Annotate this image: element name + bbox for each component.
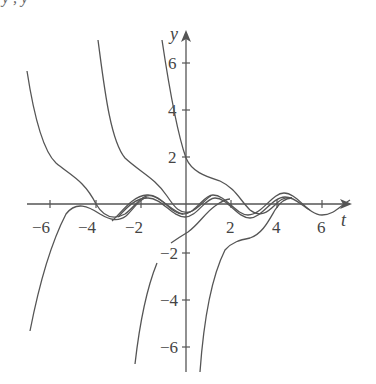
y-tick-labels: 6 4 2 −2 −4 −6 — [160, 54, 179, 357]
y-tick-label: 2 — [168, 148, 177, 167]
y-tick-label: 6 — [168, 54, 177, 73]
curve-upper-2 — [98, 40, 211, 212]
y-tick-label: −6 — [160, 338, 178, 357]
x-tick-label: 2 — [226, 218, 235, 237]
x-tick-label: −6 — [32, 218, 50, 237]
y-tick-label: −2 — [160, 244, 178, 263]
top-text-fragment: y , y — [0, 0, 29, 7]
y-axis-label: y — [168, 24, 178, 44]
solution-curves-plot: y , y −6 −4 −2 2 4 6 t 6 4 2 −2 −4 — [0, 0, 376, 384]
x-tick-labels: −6 −4 −2 2 4 6 — [32, 218, 326, 237]
x-axis-label: t — [341, 210, 347, 230]
curve-upper-3 — [162, 40, 292, 214]
curves — [27, 40, 350, 372]
curve-lower-2 — [135, 263, 157, 364]
y-tick-label: −4 — [160, 291, 179, 310]
x-tick-label: −4 — [78, 218, 97, 237]
x-tick-label: 6 — [317, 218, 326, 237]
x-tick-label: −2 — [125, 218, 143, 237]
x-tick-label: 4 — [272, 218, 281, 237]
axes — [27, 30, 352, 372]
